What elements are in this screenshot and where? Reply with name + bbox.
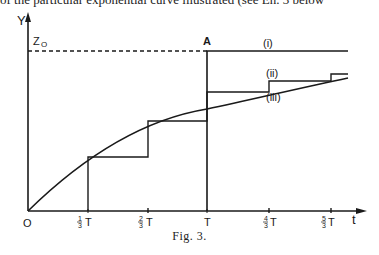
x-axis-arrow-icon	[356, 208, 367, 214]
y-axis	[25, 12, 31, 211]
figure-caption: Fig. 3.	[0, 229, 379, 244]
curve-iii-label: (iii)	[266, 91, 281, 103]
curve-iii-exponential	[28, 78, 348, 211]
svg-text:T: T	[328, 216, 335, 228]
svg-text:T: T	[146, 216, 153, 228]
tick-label-five-thirds-t: 5 3 T	[321, 215, 335, 229]
svg-text:T: T	[85, 216, 92, 228]
tick-label-t: T	[204, 216, 211, 228]
curve-ii-label: (ii)	[266, 67, 278, 79]
svg-text:T: T	[270, 216, 277, 228]
svg-text:O: O	[41, 40, 47, 49]
origin-label: O	[23, 217, 32, 229]
curve-ii-staircase	[88, 74, 348, 211]
x-axis	[28, 208, 367, 214]
point-a-label: A	[203, 35, 211, 47]
svg-text:3: 3	[78, 222, 82, 229]
svg-text:5: 5	[322, 215, 326, 222]
svg-text:4: 4	[264, 215, 268, 222]
svg-text:2: 2	[139, 215, 143, 222]
z0-label: Z O	[33, 35, 47, 49]
tick-label-two-thirds-t: 2 3 T	[138, 215, 153, 229]
svg-text:3: 3	[322, 222, 326, 229]
tick-label-four-thirds-t: 4 3 T	[263, 215, 277, 229]
svg-text:1: 1	[78, 215, 82, 222]
svg-text:3: 3	[139, 222, 143, 229]
x-axis-label: t	[352, 212, 356, 227]
curve-i-label: (i)	[263, 37, 273, 49]
figure-diagram: Y t O Z O A (i) (ii) (iii) 1 3 T 2 3 T T…	[0, 0, 379, 255]
tick-label-one-third-t: 1 3 T	[77, 215, 92, 229]
svg-text:Z: Z	[33, 35, 40, 47]
svg-text:3: 3	[264, 222, 268, 229]
y-axis-label: Y	[17, 13, 26, 28]
svg-text:T: T	[204, 216, 211, 228]
y-axis-arrow-icon	[25, 12, 31, 22]
